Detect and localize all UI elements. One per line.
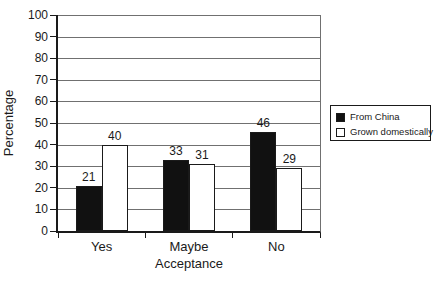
- y-axis-tick: [50, 15, 56, 16]
- y-tick-label-0: 0: [14, 224, 48, 238]
- value-label-from-china-no: 46: [242, 117, 284, 130]
- legend-item-from-china: From China: [336, 110, 428, 124]
- y-axis-tick: [50, 123, 56, 124]
- x-axis-tick: [320, 233, 321, 238]
- y-tick-label-10: 10: [14, 202, 48, 216]
- y-axis-tick: [50, 144, 56, 145]
- y-tick-label-20: 20: [14, 181, 48, 195]
- bar-grown-domestically-yes: [102, 145, 128, 231]
- y-axis-tick: [50, 231, 56, 232]
- legend-swatch-icon-grown-domestically: [336, 128, 345, 137]
- bar-from-china-maybe: [163, 160, 189, 231]
- bar-from-china-no: [250, 132, 276, 231]
- y-tick-label-30: 30: [14, 159, 48, 173]
- legend: From ChinaGrown domestically: [330, 105, 431, 141]
- legend-label-grown-domestically: Grown domestically: [350, 126, 433, 138]
- y-tick-label-50: 50: [14, 116, 48, 130]
- x-axis-tick: [232, 233, 233, 238]
- y-axis-tick: [50, 36, 56, 37]
- y-tick-label-100: 100: [14, 8, 48, 22]
- x-axis-tick: [58, 233, 59, 238]
- y-axis-tick: [50, 79, 56, 80]
- value-label-grown-domestically-no: 29: [268, 153, 310, 166]
- bar-chart-figure: 214033314629 Percentage Acceptance From …: [0, 0, 436, 282]
- gridline-90: [58, 37, 320, 38]
- y-axis-tick: [50, 166, 56, 167]
- y-axis-tick: [50, 58, 56, 59]
- gridline-80: [58, 58, 320, 59]
- y-axis-tick: [50, 187, 56, 188]
- category-label-yes: Yes: [60, 239, 144, 254]
- legend-swatch-icon-from-china: [336, 113, 345, 122]
- plot-area: 214033314629: [56, 15, 321, 233]
- category-label-maybe: Maybe: [147, 239, 231, 254]
- x-axis-title: Acceptance: [58, 256, 320, 271]
- bar-grown-domestically-no: [276, 168, 302, 231]
- value-label-grown-domestically-yes: 40: [94, 130, 136, 143]
- y-tick-label-90: 90: [14, 30, 48, 44]
- bar-from-china-yes: [76, 186, 102, 231]
- legend-label-from-china: From China: [350, 111, 400, 123]
- y-tick-label-70: 70: [14, 73, 48, 87]
- legend-item-grown-domestically: Grown domestically: [336, 125, 428, 139]
- gridline-60: [58, 101, 320, 102]
- category-label-no: No: [234, 239, 318, 254]
- y-tick-label-40: 40: [14, 138, 48, 152]
- y-axis-tick: [50, 209, 56, 210]
- value-label-grown-domestically-maybe: 31: [181, 149, 223, 162]
- y-tick-label-60: 60: [14, 94, 48, 108]
- gridline-70: [58, 80, 320, 81]
- gridline-100: [58, 15, 320, 16]
- y-axis-tick: [50, 101, 56, 102]
- bar-grown-domestically-maybe: [189, 164, 215, 231]
- y-tick-label-80: 80: [14, 51, 48, 65]
- x-axis-tick: [145, 233, 146, 238]
